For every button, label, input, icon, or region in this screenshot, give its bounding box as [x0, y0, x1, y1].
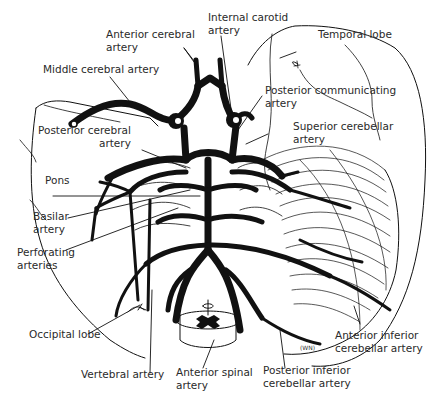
label-line: Basilar — [33, 210, 69, 223]
label-line: Anterior spinal — [176, 366, 253, 379]
label-line: Occipital lobe — [29, 328, 101, 341]
label-line: cerebellar artery — [335, 342, 423, 355]
label-anterior-cerebral-artery: Anterior cerebral artery — [106, 28, 195, 53]
label-line: Superior cerebellar — [293, 120, 393, 133]
label-line: artery — [106, 41, 195, 54]
label-line: artery — [293, 133, 393, 146]
label-line: Vertebral artery — [81, 368, 164, 381]
label-line: Internal carotid — [208, 11, 288, 24]
label-posterior-cerebral-artery: Posterior cerebral artery — [38, 124, 131, 149]
label-line: Perforating — [17, 246, 75, 259]
artist-signature: (WN) — [300, 344, 315, 351]
label-line: Posterior cerebral — [38, 124, 131, 137]
label-middle-cerebral-artery: Middle cerebral artery — [43, 63, 159, 76]
label-line: Anterior inferior — [335, 329, 423, 342]
label-line: Anterior cerebral — [106, 28, 195, 41]
label-line: artery — [33, 223, 69, 236]
label-line: artery — [38, 137, 131, 150]
label-line: artery — [265, 97, 396, 110]
label-posterior-communicating-artery: Posterior communicating artery — [265, 84, 396, 109]
label-occipital-lobe: Occipital lobe — [29, 328, 101, 341]
label-pons: Pons — [45, 174, 70, 187]
label-line: Temporal lobe — [318, 28, 392, 41]
label-line: Posterior inferior — [263, 364, 351, 377]
label-internal-carotid-artery: Internal carotid artery — [208, 11, 288, 36]
brain-artery-diagram: (WN) Anterior cerebral artery Internal c… — [0, 0, 432, 405]
label-perforating-arteries: Perforating arteries — [17, 246, 75, 271]
label-posterior-inferior-cerebellar-artery: Posterior inferior cerebellar artery — [263, 364, 351, 389]
label-superior-cerebellar-artery: Superior cerebellar artery — [293, 120, 393, 145]
label-temporal-lobe: Temporal lobe — [318, 28, 392, 41]
label-line: cerebellar artery — [263, 377, 351, 390]
label-line: Posterior communicating — [265, 84, 396, 97]
label-line: arteries — [17, 259, 75, 272]
label-line: Pons — [45, 174, 70, 187]
label-anterior-inferior-cerebellar-artery: Anterior inferior cerebellar artery — [335, 329, 423, 354]
label-line: Middle cerebral artery — [43, 63, 159, 76]
label-line: artery — [208, 24, 288, 37]
label-basilar-artery: Basilar artery — [33, 210, 69, 235]
label-vertebral-artery: Vertebral artery — [81, 368, 164, 381]
label-anterior-spinal-artery: Anterior spinal artery — [176, 366, 253, 391]
temporal-lobe-outline — [248, 26, 426, 367]
label-line: artery — [176, 379, 253, 392]
